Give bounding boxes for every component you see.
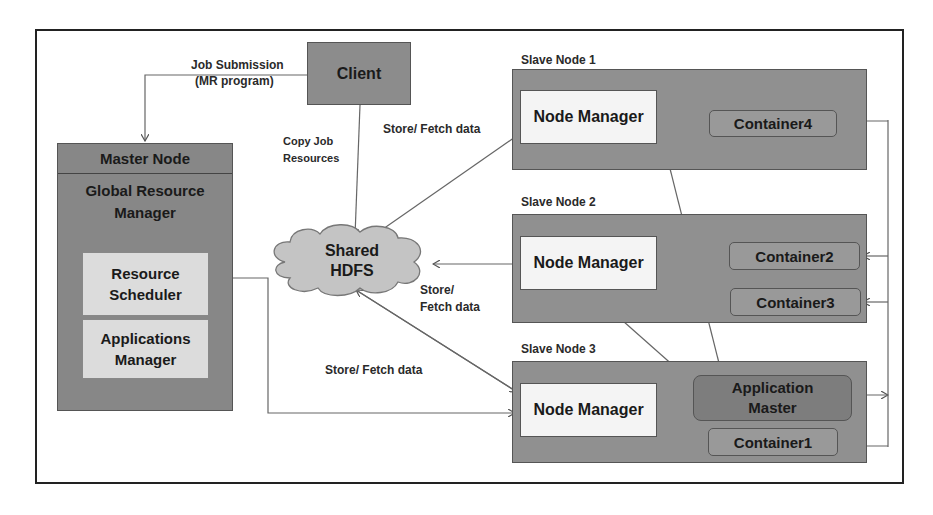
container3-box: Container3	[730, 288, 861, 316]
applications-manager-box: Applications Manager	[82, 319, 209, 379]
label-copy-job: Copy Job	[283, 134, 333, 149]
hdfs-line1: Shared	[312, 241, 392, 261]
container3-label: Container3	[756, 294, 834, 311]
slave-node-3-title: Slave Node 3	[521, 342, 596, 357]
label-store-fetch-3: Store/ Fetch data	[325, 363, 422, 378]
label-store-fetch-2a: Store/	[420, 283, 454, 298]
label-store-fetch-2b: Fetch data	[420, 300, 480, 315]
label-mr-program: (MR program)	[195, 74, 274, 89]
node-manager-label: Node Manager	[533, 252, 643, 274]
resource-scheduler-box: Resource Scheduler	[82, 252, 209, 316]
resource-scheduler-label: Resource Scheduler	[91, 263, 200, 305]
application-master-box: Application Master	[693, 375, 852, 421]
slave-node-1-node-manager: Node Manager	[520, 90, 657, 144]
master-node-box: Master Node Global Resource Manager Reso…	[57, 143, 233, 411]
slave-node-2-node-manager: Node Manager	[520, 236, 657, 290]
client-label: Client	[337, 65, 381, 83]
container2-box: Container2	[729, 242, 860, 270]
applications-manager-label: Applications Manager	[87, 328, 204, 370]
node-manager-label: Node Manager	[533, 106, 643, 128]
node-manager-label: Node Manager	[533, 399, 643, 421]
label-job-submission: Job Submission	[191, 58, 284, 73]
slave-node-3-node-manager: Node Manager	[520, 383, 657, 437]
master-node-title: Master Node	[58, 144, 232, 174]
label-resources: Resources	[283, 151, 339, 166]
slave-node-2-title: Slave Node 2	[521, 195, 596, 210]
slave-node-1-title: Slave Node 1	[521, 53, 596, 68]
shared-hdfs-label: Shared HDFS	[312, 241, 392, 281]
global-resource-manager-label: Global Resource Manager	[58, 180, 232, 224]
container4-label: Container4	[734, 115, 812, 132]
container1-label: Container1	[734, 434, 812, 451]
client-box: Client	[307, 42, 411, 105]
container4-box: Container4	[709, 110, 837, 137]
application-master-label: Application Master	[714, 378, 831, 418]
hdfs-line2: HDFS	[312, 261, 392, 281]
label-store-fetch-1: Store/ Fetch data	[383, 122, 480, 137]
container2-label: Container2	[755, 248, 833, 265]
container1-box: Container1	[708, 428, 838, 456]
